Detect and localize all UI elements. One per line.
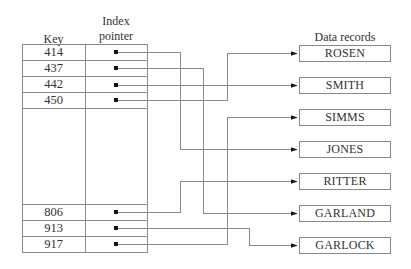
key-cell: 917 [22, 236, 85, 252]
pointer-dot-917 [114, 242, 118, 246]
pointer-dot-450 [114, 98, 118, 102]
record-label-garlock: GARLOCK [299, 237, 391, 253]
record-label-smith: SMITH [299, 77, 391, 93]
key-cell: 806 [22, 204, 85, 220]
record-label-garland: GARLAND [299, 205, 391, 221]
key-cell: 414 [22, 44, 85, 60]
pointer-dot-437 [114, 66, 118, 70]
record-label-rosen: ROSEN [299, 45, 391, 61]
pointer-dot-913 [114, 226, 118, 230]
record-label-ritter: RITTER [299, 173, 391, 189]
key-cell: 913 [22, 220, 85, 236]
key-cell: 442 [22, 76, 85, 92]
key-cell: 450 [22, 92, 85, 108]
pointer-dot-414 [114, 50, 118, 54]
pointer-806-to-ritter [117, 182, 297, 213]
key-cell: 437 [22, 60, 85, 76]
pointer-dot-806 [114, 210, 118, 214]
record-label-jones: JONES [299, 141, 391, 157]
record-label-simms: SIMMS [299, 109, 391, 125]
pointer-437-to-garland [117, 69, 297, 214]
pointer-dot-442 [114, 83, 118, 87]
